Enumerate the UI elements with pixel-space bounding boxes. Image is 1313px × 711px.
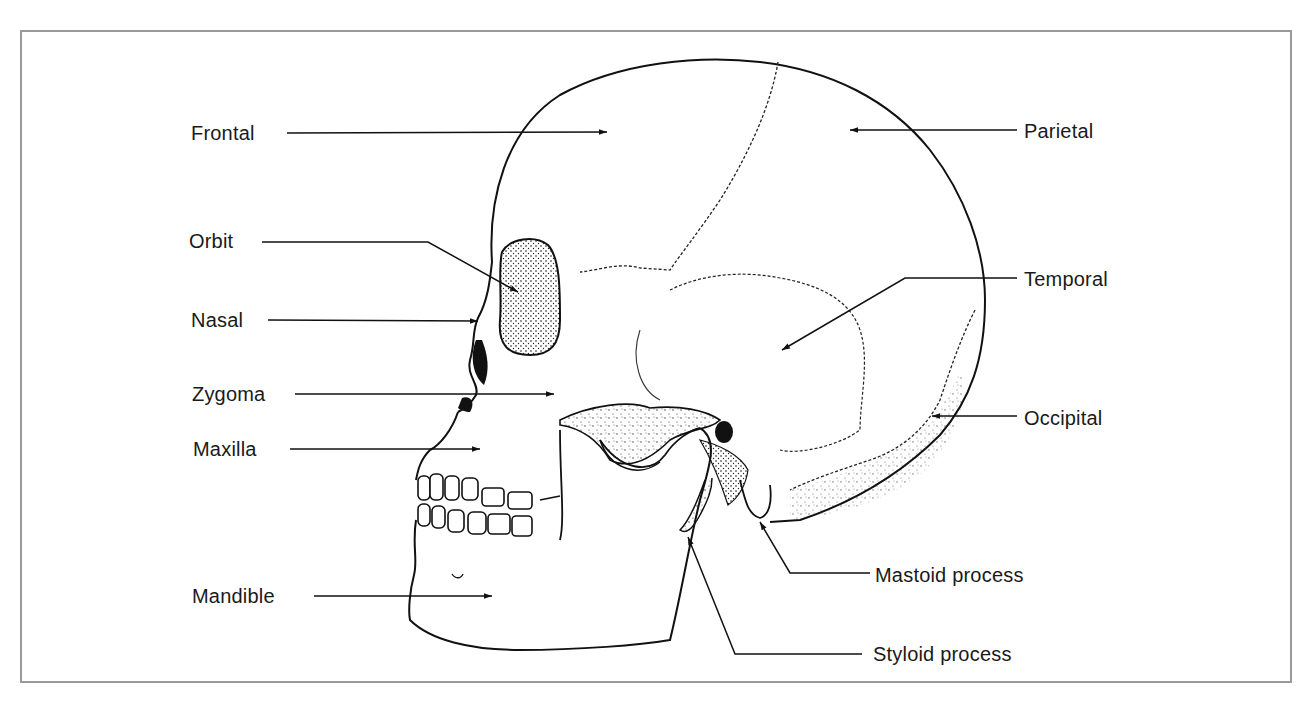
label-parietal: Parietal: [1024, 121, 1093, 141]
nasal-leader: [268, 320, 478, 321]
zygomatic-arch: [560, 404, 720, 464]
label-nasal: Nasal: [191, 310, 243, 330]
occipital-region: [790, 370, 963, 520]
ear-canal: [715, 421, 733, 443]
mental-foramen: [452, 574, 463, 578]
label-occipital: Occipital: [1024, 408, 1103, 428]
orbit-shape: [500, 239, 560, 355]
label-temporal: Temporal: [1024, 269, 1108, 289]
teeth: [418, 474, 560, 536]
label-styloid-process: Styloid process: [873, 644, 1012, 664]
temporal-region: [636, 330, 660, 400]
styloid-leader: [688, 537, 862, 654]
mastoid-leader: [760, 522, 870, 573]
label-mastoid-process: Mastoid process: [875, 565, 1024, 585]
label-maxilla: Maxilla: [193, 439, 257, 459]
label-frontal: Frontal: [191, 123, 255, 143]
orbit-leader: [262, 242, 518, 292]
label-orbit: Orbit: [189, 231, 233, 251]
label-zygoma: Zygoma: [192, 384, 265, 404]
coronal-suture: [580, 62, 778, 272]
mastoid-process-shape: [740, 480, 771, 518]
nasal-bone: [473, 340, 488, 385]
styloid-process-shape: [680, 478, 712, 531]
frontal-leader: [287, 132, 607, 133]
label-mandible: Mandible: [192, 586, 275, 606]
